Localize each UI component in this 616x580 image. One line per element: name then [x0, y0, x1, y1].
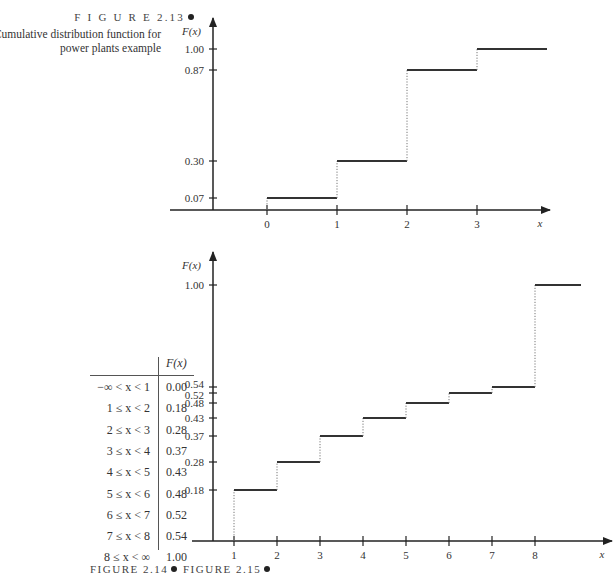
- y-axis-label: F(x): [181, 259, 201, 272]
- y-tick-label: 0.07: [185, 192, 205, 204]
- x-tick-label: 6: [446, 549, 452, 561]
- y-tick-label: 0.54: [185, 378, 205, 390]
- table-cell-range: 1 ≤ x < 2: [20, 401, 150, 416]
- x-tick-label: 1: [334, 218, 340, 230]
- table-vertical-divider: [158, 357, 159, 550]
- table-cell-value: 0.52: [166, 508, 187, 523]
- y-tick-label: 1.00: [185, 43, 205, 55]
- x-tick-label: 1: [231, 549, 237, 561]
- chart-figure-2-15: F(x)x0.180.280.370.430.480.520.541.00123…: [181, 252, 612, 561]
- chart-figure-2-13: F(x)x0.070.300.871.000123: [170, 18, 550, 230]
- y-tick-label: 0.43: [185, 412, 205, 424]
- x-tick-label: 2: [274, 549, 280, 561]
- bullet-icon: [171, 566, 177, 572]
- y-tick-label: 0.87: [185, 64, 205, 76]
- x-axis-label: x: [599, 548, 605, 560]
- table-cell-range: −∞ < x < 1: [20, 380, 150, 395]
- y-axis-label: F(x): [181, 25, 201, 38]
- x-tick-label: 3: [474, 218, 480, 230]
- table-cell-value: 0.28: [166, 423, 187, 438]
- x-tick-label: 5: [403, 549, 409, 561]
- table-cell-value: 0.43: [166, 465, 187, 480]
- x-tick-label: 3: [317, 549, 323, 561]
- y-tick-label: 1.00: [185, 279, 205, 291]
- x-tick-label: 0: [264, 218, 270, 230]
- figure-2-14-label: FIGURE 2.14: [90, 563, 177, 575]
- table-cell-value: 0.37: [166, 444, 187, 459]
- y-tick-label: 0.18: [185, 484, 205, 496]
- table-cell-range: 6 ≤ x < 7: [20, 508, 150, 523]
- table-cell-value: 0.18: [166, 401, 187, 416]
- figure-label-text: FIGURE 2.15: [183, 563, 261, 575]
- table-cell-range: 7 ≤ x < 8: [20, 529, 150, 544]
- x-axis-label: x: [537, 217, 543, 229]
- table-cell-value: 0.54: [166, 529, 187, 544]
- y-tick-label: 0.30: [185, 155, 205, 167]
- y-tick-label: 0.37: [185, 430, 205, 442]
- table-cell-value: 0.00: [166, 380, 187, 395]
- x-tick-label: 7: [489, 549, 495, 561]
- table-header-divider: [90, 375, 194, 376]
- bullet-icon: [264, 566, 270, 572]
- x-tick-label: 8: [532, 549, 538, 561]
- y-tick-label: 0.28: [185, 456, 205, 468]
- table-cell-range: 3 ≤ x < 4: [20, 444, 150, 459]
- table-header: F(x): [166, 356, 187, 371]
- y-tick-label: 0.52: [185, 389, 204, 401]
- table-cell-range: 2 ≤ x < 3: [20, 423, 150, 438]
- table-cell-range: 5 ≤ x < 6: [20, 487, 150, 502]
- x-tick-label: 4: [360, 549, 366, 561]
- figure-label-text: FIGURE 2.14: [90, 563, 168, 575]
- table-cell-value: 0.48: [166, 487, 187, 502]
- figure-2-15-label: FIGURE 2.15: [183, 563, 270, 575]
- x-tick-label: 2: [404, 218, 410, 230]
- table-cell-range: 4 ≤ x < 5: [20, 465, 150, 480]
